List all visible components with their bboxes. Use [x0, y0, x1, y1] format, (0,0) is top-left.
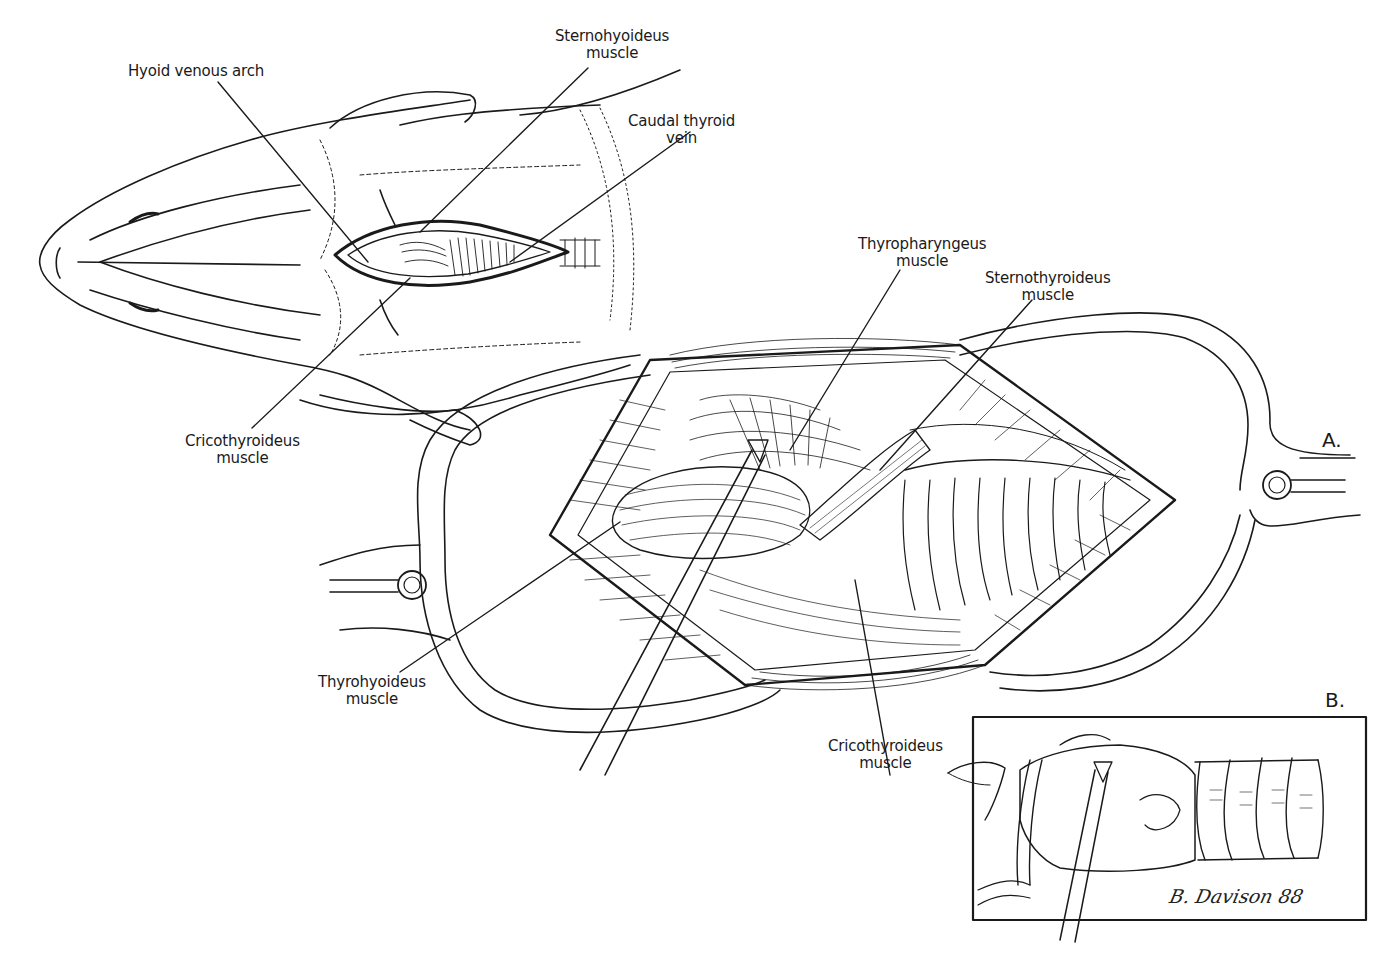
leader-lines [218, 68, 1355, 775]
label-sternohyoideus-muscle: Sternohyoideus muscle [555, 28, 669, 62]
label-line: Cricothyroideus [828, 738, 943, 755]
surgical-field [550, 338, 1175, 775]
label-cricothyroideus-muscle-lower: Cricothyroideus muscle [828, 738, 943, 772]
panel-letter-b: B. [1325, 688, 1345, 712]
anatomical-figure: Hyoid venous arch Sternohyoideus muscle … [0, 0, 1391, 967]
label-line: Thyropharyngeus [858, 236, 986, 253]
label-thyrohyoideus-muscle: Thyrohyoideus muscle [318, 674, 426, 708]
label-cricothyroideus-muscle-upper: Cricothyroideus muscle [185, 433, 300, 467]
head-outline [40, 70, 680, 445]
label-caudal-thyroid-vein: Caudal thyroid vein [628, 113, 735, 147]
label-line: Sternothyroideus [985, 270, 1111, 287]
label-line: muscle [828, 755, 943, 772]
label-line: muscle [555, 45, 669, 62]
label-line: muscle [985, 287, 1111, 304]
label-line: Sternohyoideus [555, 28, 669, 45]
label-line: muscle [858, 253, 986, 270]
label-hyoid-venous-arch: Hyoid venous arch [128, 63, 264, 80]
label-line: muscle [318, 691, 426, 708]
label-thyropharyngeus-muscle: Thyropharyngeus muscle [858, 236, 986, 270]
panel-letter-a: A. [1322, 428, 1342, 452]
label-line: vein [628, 130, 735, 147]
label-line: muscle [185, 450, 300, 467]
label-line: Thyrohyoideus [318, 674, 426, 691]
label-line: Cricothyroideus [185, 433, 300, 450]
panel-b-inset [948, 717, 1366, 942]
label-line: Caudal thyroid [628, 113, 735, 130]
ventral-incision [335, 221, 600, 285]
label-sternothyroideus-muscle: Sternothyroideus muscle [985, 270, 1111, 304]
artist-signature: B. Davison 88 [1168, 885, 1306, 907]
label-line: Hyoid venous arch [128, 63, 264, 80]
retractor-frame [320, 313, 1360, 732]
